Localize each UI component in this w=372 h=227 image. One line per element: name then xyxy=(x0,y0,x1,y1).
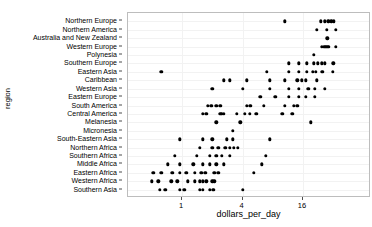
data-point xyxy=(268,79,271,82)
data-point xyxy=(215,163,218,166)
y-axis-tick-labels: Northern EuropeNorthern AmericaAustralia… xyxy=(14,12,122,197)
data-point xyxy=(157,179,160,182)
data-point xyxy=(304,95,307,98)
y-axis-tick-label: Caribbean xyxy=(85,76,117,83)
data-point xyxy=(228,154,231,157)
x-axis-title: dollars_per_day xyxy=(127,209,370,219)
y-axis-tick-label: Northern Europe xyxy=(65,17,117,24)
data-point xyxy=(295,79,298,82)
y-axis-tick-label: Southern Asia xyxy=(73,185,117,192)
data-point xyxy=(297,95,300,98)
gridline-horizontal xyxy=(128,139,369,140)
data-point xyxy=(287,87,290,90)
data-point xyxy=(211,87,214,90)
data-point xyxy=(274,95,277,98)
data-point xyxy=(184,171,187,174)
data-point xyxy=(217,146,220,149)
y-axis-tick-mark xyxy=(119,70,122,71)
data-point xyxy=(283,20,286,23)
data-point xyxy=(332,20,335,23)
data-point xyxy=(159,171,162,174)
data-point xyxy=(323,87,326,90)
gridline-horizontal xyxy=(128,80,369,81)
data-point xyxy=(209,104,212,107)
y-axis-tick-label: Western Asia xyxy=(76,84,117,91)
y-axis-tick-label: Polynesia xyxy=(87,51,117,58)
data-point xyxy=(178,163,181,166)
data-point xyxy=(211,146,214,149)
data-point xyxy=(295,104,298,107)
data-point xyxy=(313,95,316,98)
data-point xyxy=(287,62,290,65)
data-point xyxy=(315,28,318,31)
data-point xyxy=(297,87,300,90)
data-point xyxy=(215,154,218,157)
y-axis-title: region xyxy=(0,0,14,197)
data-point xyxy=(241,87,244,90)
data-point xyxy=(248,112,251,115)
data-point xyxy=(325,28,328,31)
data-point xyxy=(171,171,174,174)
gridline-vertical xyxy=(243,13,244,196)
data-point xyxy=(239,121,242,124)
gridline-vertical xyxy=(182,13,183,196)
data-point xyxy=(249,104,252,107)
data-point xyxy=(283,104,286,107)
data-point xyxy=(255,112,258,115)
data-point xyxy=(213,179,216,182)
data-point xyxy=(182,188,185,191)
y-axis-tick-mark xyxy=(119,28,122,29)
y-axis-tick-label: South America xyxy=(71,101,117,108)
gridline-horizontal xyxy=(128,181,369,182)
gridline-horizontal xyxy=(128,173,369,174)
data-point xyxy=(331,70,334,73)
y-axis-tick-label: Australia and New Zealand xyxy=(33,34,117,41)
data-point xyxy=(231,137,234,140)
y-axis-tick-mark xyxy=(119,138,122,139)
data-point xyxy=(163,188,166,191)
data-point xyxy=(222,79,225,82)
data-point xyxy=(166,163,169,166)
y-axis-tick-label: Central America xyxy=(67,109,117,116)
data-point xyxy=(220,154,223,157)
data-point xyxy=(178,171,181,174)
gridline-horizontal xyxy=(128,38,369,39)
data-point xyxy=(225,137,228,140)
data-point xyxy=(201,137,204,140)
data-point xyxy=(245,79,248,82)
data-point xyxy=(313,87,316,90)
data-point xyxy=(215,121,218,124)
data-point xyxy=(334,28,337,31)
data-point xyxy=(291,112,294,115)
data-point xyxy=(262,104,265,107)
data-point xyxy=(236,146,239,149)
data-point xyxy=(208,163,211,166)
y-axis-tick-mark xyxy=(119,180,122,181)
data-point xyxy=(264,154,267,157)
y-axis-tick-label: Eastern Africa xyxy=(73,168,117,175)
y-axis-tick-mark xyxy=(119,79,122,80)
data-point xyxy=(219,104,222,107)
y-axis-tick-mark xyxy=(119,146,122,147)
data-point xyxy=(332,62,335,65)
data-point xyxy=(205,179,208,182)
data-point xyxy=(222,112,225,115)
data-point xyxy=(211,137,214,140)
x-axis-tick-mark xyxy=(181,197,182,200)
y-axis-title-text: region xyxy=(3,88,12,109)
gridline-horizontal xyxy=(128,55,369,56)
data-point xyxy=(150,179,153,182)
data-point xyxy=(304,79,307,82)
data-point xyxy=(235,112,238,115)
y-axis-tick-mark xyxy=(119,121,122,122)
data-point xyxy=(231,129,234,132)
data-point xyxy=(228,79,231,82)
y-axis-tick-mark xyxy=(119,188,122,189)
data-point xyxy=(224,146,227,149)
y-axis-tick-mark xyxy=(119,112,122,113)
data-point xyxy=(258,95,261,98)
data-point xyxy=(178,188,181,191)
data-point xyxy=(201,163,204,166)
data-point xyxy=(199,171,202,174)
data-point xyxy=(314,70,317,73)
